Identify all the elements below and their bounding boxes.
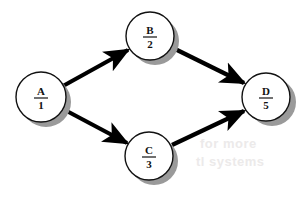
node-d[interactable]: D 5 xyxy=(242,73,296,126)
node-b[interactable]: B 2 xyxy=(126,12,179,65)
edge-b-to-d[interactable] xyxy=(173,48,244,83)
ghost-text-1: tl systems xyxy=(196,154,265,169)
node-d-letter: D xyxy=(262,85,270,97)
node-d-number: 5 xyxy=(263,99,269,111)
graph-svg: for more tl systems A 1 B 2 xyxy=(0,0,303,198)
node-b-circle xyxy=(126,12,174,60)
edge-a-to-c[interactable] xyxy=(63,109,127,143)
node-d-circle xyxy=(242,73,290,121)
edge-a-to-b[interactable] xyxy=(63,50,128,86)
diagram-canvas: for more tl systems A 1 B 2 xyxy=(0,0,303,198)
scan-artifacts: for more tl systems xyxy=(196,136,265,169)
node-b-number: 2 xyxy=(147,38,153,50)
node-b-letter: B xyxy=(146,24,154,36)
node-a[interactable]: A 1 xyxy=(16,72,71,127)
node-a-number: 1 xyxy=(38,99,44,111)
node-a-letter: A xyxy=(37,85,45,97)
node-c[interactable]: C 3 xyxy=(125,132,178,185)
node-c-number: 3 xyxy=(146,158,152,170)
ghost-text-2: for more xyxy=(200,136,257,151)
node-c-circle xyxy=(125,132,173,180)
node-c-letter: C xyxy=(145,144,153,156)
node-a-circle xyxy=(16,72,66,122)
